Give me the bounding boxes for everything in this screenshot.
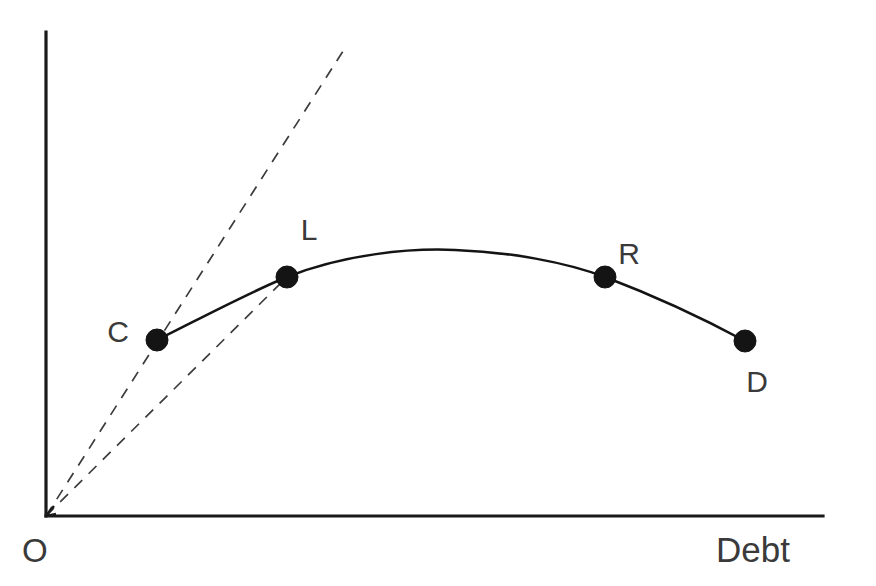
point-label-c: C	[107, 315, 129, 348]
steep-ray-through-c-line	[46, 48, 345, 516]
point-label-d: D	[746, 365, 768, 398]
point-label-l: L	[301, 213, 318, 246]
point-label-r: R	[618, 237, 640, 270]
x-axis-title: Debt	[716, 530, 790, 569]
data-marker-r[interactable]	[594, 266, 616, 288]
shallow-ray-to-l-line	[46, 277, 287, 516]
axis-label-group: O Debt	[22, 530, 790, 569]
dashed-ray-group	[46, 48, 345, 516]
axes-group	[46, 32, 823, 516]
data-marker-l[interactable]	[276, 266, 298, 288]
origin-label: O	[22, 532, 48, 569]
laffer-curve-group	[157, 250, 745, 341]
chart-canvas: C L R D O Debt	[0, 0, 876, 586]
point-label-group: C L R D	[107, 213, 768, 398]
data-marker-c[interactable]	[146, 329, 168, 351]
data-marker-d[interactable]	[734, 330, 756, 352]
data-marker-group	[146, 266, 756, 352]
laffer-curve-path	[157, 250, 745, 341]
debt-laffer-curve-figure: C L R D O Debt	[0, 0, 876, 586]
